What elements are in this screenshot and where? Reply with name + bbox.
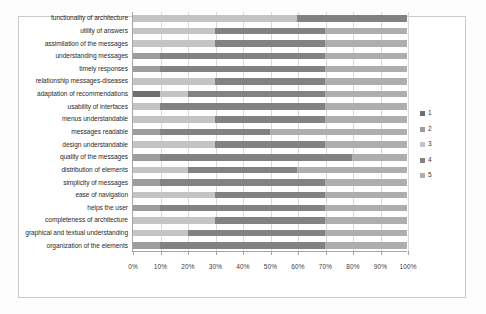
legend-item-4[interactable]: 4 [420,157,460,164]
bar-segment-series-4 [188,91,325,98]
bar-segment-series-3 [133,192,215,199]
legend-item-1[interactable]: 1 [420,110,460,117]
bar-segment-series-4 [160,179,324,186]
stacked-bar [133,179,407,186]
bar-segment-series-5 [325,230,407,237]
bar-segment-series-4 [215,78,325,85]
category-label: design understandable [62,141,128,148]
x-tick [243,251,244,255]
bar-segment-series-5 [325,28,407,35]
bar-segment-series-2 [133,129,160,136]
stacked-bar [133,154,407,161]
bar-row: utility of answers [133,25,407,38]
bar-row: timely responses [133,63,407,76]
stacked-bar [133,192,407,199]
bar-segment-series-2 [133,66,160,73]
bar-segment-series-5 [325,103,407,110]
stacked-bar [133,230,407,237]
category-label: quality of the messages [60,154,128,161]
bar-segment-series-5 [325,217,407,224]
stacked-bar [133,78,407,85]
bar-segment-series-5 [325,78,407,85]
legend-item-5[interactable]: 5 [420,172,460,179]
bar-segment-series-4 [160,242,324,249]
category-label: relationship messages-diseases [36,78,128,85]
stacked-bar [133,53,407,60]
stacked-bar [133,91,407,98]
x-tick-label: 100% [399,263,416,270]
bar-segment-series-4 [188,230,325,237]
stacked-bar [133,217,407,224]
bar-segment-series-5 [325,179,407,186]
x-tick [381,251,382,255]
bar-segment-series-4 [215,217,325,224]
x-tick-label: 10% [154,263,167,270]
chart-legend: 12345 [420,110,460,188]
bar-segment-series-5 [325,242,407,249]
stacked-bar [133,66,407,73]
bar-segment-series-4 [160,129,270,136]
stacked-bar [133,167,407,174]
bar-row: ease of navigation [133,189,407,202]
bar-row: messages readable [133,126,407,139]
chart-canvas: functionality of architectureutility of … [0,0,486,314]
bar-segment-series-5 [325,53,407,60]
category-label: menus understandable [62,116,128,123]
x-tick [353,251,354,255]
bar-segment-series-5 [325,116,407,123]
x-tick [133,251,134,255]
legend-swatch-icon [420,158,425,163]
bar-row: simplicity of messages [133,176,407,189]
x-tick [161,251,162,255]
bar-segment-series-3 [133,78,215,85]
bar-segment-series-3 [133,116,215,123]
x-tick [271,251,272,255]
bar-segment-series-5 [325,205,407,212]
category-label: completeness of architecture [45,217,128,224]
bar-segment-series-5 [297,167,407,174]
legend-label: 3 [428,141,432,148]
bar-segment-series-4 [160,154,352,161]
x-tick-label: 60% [291,263,304,270]
x-tick-label: 20% [181,263,194,270]
legend-label: 1 [428,110,432,117]
gridline [408,12,409,251]
bar-segment-series-4 [215,141,325,148]
bar-segment-series-3 [133,40,215,47]
stacked-bar [133,15,407,22]
bar-segment-series-5 [325,66,407,73]
stacked-bar [133,28,407,35]
x-tick [326,251,327,255]
legend-swatch-icon [420,127,425,132]
bar-segment-series-4 [215,40,325,47]
legend-label: 2 [428,126,432,133]
bar-segment-series-2 [133,242,160,249]
legend-swatch-icon [420,111,425,116]
category-label: organization of the elements [47,242,128,249]
category-label: understanding messages [55,53,128,60]
bar-row: assimilation of the messages [133,37,407,50]
category-label: adaptation of recommendations [37,91,128,98]
bar-row: quality of the messages [133,151,407,164]
bar-row: helps the user [133,201,407,214]
x-tick [408,251,409,255]
bar-row: functionality of architecture [133,12,407,25]
bar-row: understanding messages [133,50,407,63]
legend-label: 4 [428,157,432,164]
bar-segment-series-4 [215,116,325,123]
legend-item-2[interactable]: 2 [420,126,460,133]
stacked-bar [133,129,407,136]
bar-segment-series-4 [215,28,325,35]
legend-item-3[interactable]: 3 [420,141,460,148]
bar-segment-series-3 [133,217,215,224]
bar-segment-series-3 [133,141,215,148]
stacked-bar [133,141,407,148]
category-label: simplicity of messages [63,179,128,186]
plot-area: functionality of architectureutility of … [132,12,407,252]
bar-segment-series-5 [270,129,407,136]
bar-segment-series-5 [325,91,407,98]
category-label: distribution of elements [61,167,128,174]
category-label: usability of interfaces [68,103,128,110]
category-label: utility of answers [80,28,128,35]
bar-segment-series-5 [325,192,407,199]
